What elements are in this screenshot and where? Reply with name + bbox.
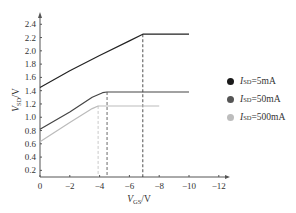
legend-item-5ma: ISD=5mA (227, 72, 285, 90)
y-axis-label: VSD/V (11, 88, 22, 112)
y-tick-label: 2.0 (25, 46, 37, 56)
x-tick-label: −12 (212, 181, 226, 191)
legend-dot-icon (227, 114, 234, 121)
y-tick-label: 1.4 (25, 86, 37, 96)
legend-label-value: =50mA (251, 94, 280, 104)
legend-label-sub: SD (243, 78, 251, 85)
legend: ISD=5mA ISD=50mA ISD=500mA (227, 72, 285, 126)
y-tick-label: 1.0 (25, 112, 37, 122)
y-axis-arrow-icon (38, 12, 42, 18)
legend-dot-icon (227, 96, 234, 103)
legend-label-value: =5mA (251, 76, 275, 86)
x-axis-label: VGS/V (127, 194, 151, 205)
y-tick-label: 1.6 (25, 72, 37, 82)
y-tick-label: 1.8 (25, 59, 37, 69)
y-tick-label: 0.4 (25, 152, 37, 162)
y-tick-label: 0.2 (25, 165, 36, 175)
legend-label-sub: SD (243, 96, 251, 103)
x-tick-label: −6 (125, 181, 135, 191)
series-line (40, 34, 189, 87)
series-line (40, 106, 159, 142)
x-tick-label: −8 (154, 181, 164, 191)
x-tick-label: −4 (95, 181, 105, 191)
x-tick-label: −10 (182, 181, 197, 191)
y-tick-label: 0.8 (25, 126, 37, 136)
x-tick-label: 0 (38, 181, 43, 191)
series-line (40, 92, 189, 129)
y-tick-label: 1.2 (25, 99, 36, 109)
x-axis-arrow-icon (225, 175, 230, 179)
legend-label-sub: SD (243, 114, 251, 121)
x-tick-label: −2 (65, 181, 75, 191)
legend-item-500ma: ISD=500mA (227, 108, 285, 126)
y-tick-label: 2.2 (25, 33, 36, 43)
y-tick-label: 0.6 (25, 139, 37, 149)
legend-dot-icon (227, 78, 234, 85)
y-tick-label: 2.4 (25, 19, 37, 29)
legend-item-50ma: ISD=50mA (227, 90, 285, 108)
legend-label-value: =500mA (251, 112, 285, 122)
